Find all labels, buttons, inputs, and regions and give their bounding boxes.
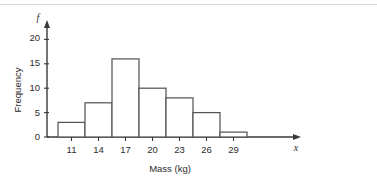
chart-svg: Frequency f 0 5 10 15 20	[0, 0, 377, 188]
y-tick-label-20: 20	[29, 32, 40, 43]
histogram-bar-29	[220, 132, 247, 137]
histogram-bar-20	[139, 88, 166, 137]
y-axis-title: Frequency	[12, 67, 23, 112]
x-tick-label-26: 26	[201, 144, 212, 155]
y-axis-arrow-icon	[44, 20, 50, 28]
y-tick-label-15: 15	[29, 57, 40, 68]
histogram-bar-14	[85, 103, 112, 137]
histogram-bar-17	[112, 59, 139, 137]
histogram-screenshot: Frequency f 0 5 10 15 20	[0, 0, 377, 188]
histogram-chart: Frequency f 0 5 10 15 20	[0, 0, 377, 188]
x-tick-label-23: 23	[174, 144, 185, 155]
x-tick-label-11: 11	[67, 144, 77, 155]
y-axis-symbol-label: f	[37, 12, 41, 23]
x-axis-arrow-icon	[293, 134, 301, 140]
histogram-bar-11	[58, 122, 85, 137]
y-tick-label-10: 10	[29, 82, 40, 93]
x-axis-title: Mass (kg)	[149, 163, 191, 174]
y-tick-label-0: 0	[35, 131, 40, 142]
x-axis-symbol-label: x	[293, 142, 299, 153]
y-tick-label-5: 5	[35, 107, 40, 118]
x-tick-label-17: 17	[120, 144, 131, 155]
x-tick-label-14: 14	[93, 144, 104, 155]
x-tick-label-29: 29	[228, 144, 239, 155]
histogram-bar-26	[193, 113, 220, 137]
x-tick-label-20: 20	[147, 144, 158, 155]
histogram-bar-23	[166, 98, 193, 137]
